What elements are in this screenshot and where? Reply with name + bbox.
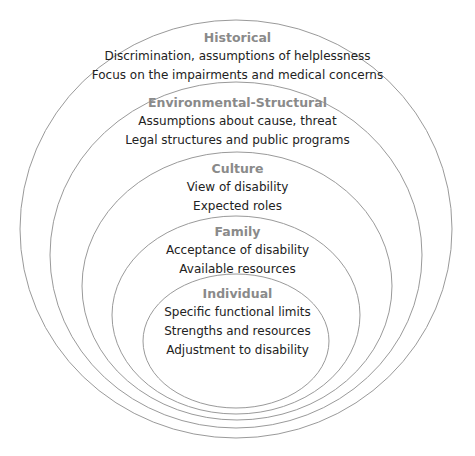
layer-heading: Environmental-Structural	[0, 93, 475, 112]
layer-line: Specific functional limits	[0, 303, 475, 322]
layer-line: Focus on the impairments and medical con…	[0, 66, 475, 85]
layer-family: Family Acceptance of disability Availabl…	[0, 222, 475, 279]
layer-heading: Family	[0, 222, 475, 241]
layer-line: Legal structures and public programs	[0, 131, 475, 150]
layer-line: View of disability	[0, 178, 475, 197]
layer-line: Acceptance of disability	[0, 241, 475, 260]
layer-line: Adjustment to disability	[0, 341, 475, 360]
layer-line: Strengths and resources	[0, 322, 475, 341]
layer-culture: Culture View of disability Expected role…	[0, 159, 475, 216]
layer-line: Discrimination, assumptions of helplessn…	[0, 47, 475, 66]
layer-heading: Culture	[0, 159, 475, 178]
layer-heading: Individual	[0, 284, 475, 303]
layer-historical: Historical Discrimination, assumptions o…	[0, 28, 475, 85]
layer-line: Assumptions about cause, threat	[0, 112, 475, 131]
layer-line: Available resources	[0, 260, 475, 279]
layer-environmental-structural: Environmental-Structural Assumptions abo…	[0, 93, 475, 150]
layer-individual: Individual Specific functional limits St…	[0, 284, 475, 360]
layer-line: Expected roles	[0, 197, 475, 216]
layer-heading: Historical	[0, 28, 475, 47]
